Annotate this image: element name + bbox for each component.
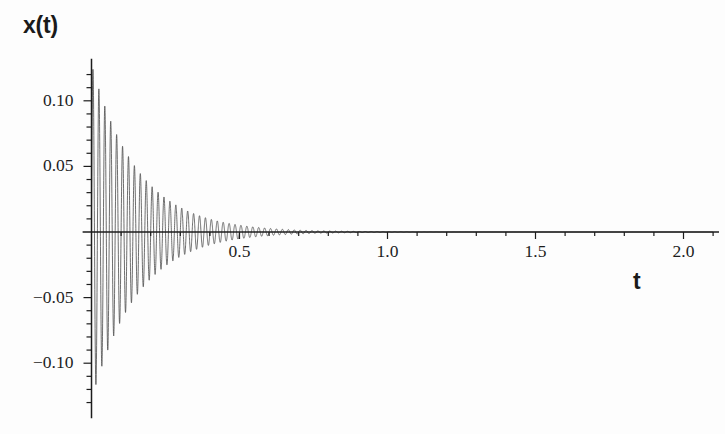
x-axis-ticks (121, 232, 713, 239)
plot-area (0, 0, 725, 434)
y-tick-label: 0.10 (12, 90, 74, 111)
y-axis-title: x(t) (23, 12, 58, 39)
x-tick-label: 1.0 (358, 241, 418, 262)
y-axis-ticks (84, 75, 92, 403)
y-tick-label: −0.10 (12, 352, 74, 373)
x-tick-label: 2.0 (654, 241, 714, 262)
axes-group (83, 59, 719, 418)
figure-canvas: x(t) t 0.51.01.52.0 −0.10−0.050.050.10 (0, 0, 725, 434)
x-tick-label: 0.5 (210, 241, 270, 262)
damped-oscillation-curve (92, 69, 714, 384)
x-tick-label: 1.5 (506, 241, 566, 262)
y-tick-label: −0.05 (12, 287, 74, 308)
y-tick-label: 0.05 (12, 155, 74, 176)
x-axis-title: t (633, 268, 640, 295)
